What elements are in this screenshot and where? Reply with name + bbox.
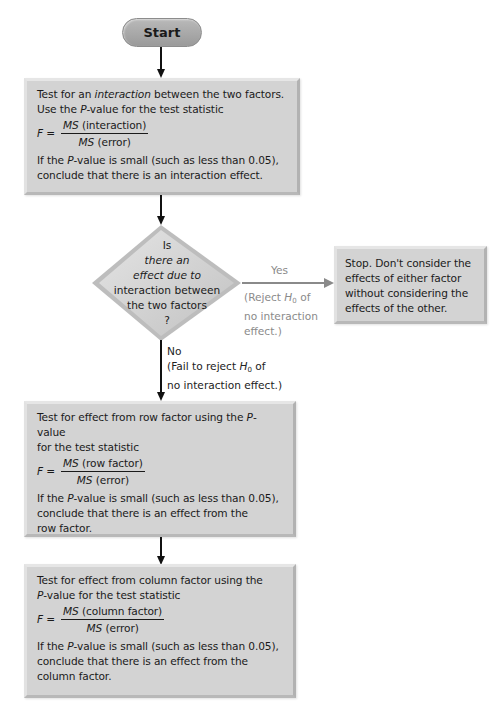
start-terminal: Start	[122, 18, 202, 47]
interaction-test-intro: Test for an interaction between the two …	[37, 87, 287, 102]
yes-note: (Reject H0 of no interaction effect.)	[244, 290, 334, 339]
row-factor-f-formula: F = MS (row factor) MS (error)	[37, 456, 283, 487]
yes-label: Yes	[271, 263, 288, 278]
column-factor-f-formula: F = MS (column factor) MS (error)	[37, 604, 283, 635]
interaction-f-formula: F = MS (interaction) MS (error)	[37, 118, 287, 149]
formula-numerator: MS (row factor)	[61, 456, 145, 472]
formula-denominator: MS (error)	[87, 620, 139, 635]
formula-denominator: MS (error)	[77, 472, 129, 487]
arrow-row-to-column-test	[160, 537, 162, 557]
formula-numerator: MS (interaction)	[61, 118, 148, 134]
no-arrow	[160, 340, 162, 393]
stop-box: Stop. Don't consider the effects of eith…	[334, 246, 487, 324]
yes-arrow	[242, 282, 326, 284]
arrowhead-icon	[157, 69, 165, 78]
column-factor-test-box: Test for effect from column factor using…	[24, 564, 296, 698]
formula-denominator: MS (error)	[79, 134, 131, 149]
row-factor-test-box: Test for effect from row factor using th…	[24, 401, 296, 537]
start-label: Start	[144, 25, 181, 40]
arrowhead-icon	[324, 278, 334, 288]
formula-numerator: MS (column factor)	[61, 604, 164, 620]
arrow-interaction-test-to-decision	[160, 195, 162, 217]
arrow-start-to-interaction-test	[160, 47, 162, 70]
decision-question: Is there an effect due to interaction be…	[92, 238, 242, 328]
interaction-test-box: Test for an interaction between the two …	[24, 78, 300, 195]
no-note: No (Fail to reject H0 of no interaction …	[167, 344, 347, 393]
arrowhead-icon	[157, 392, 165, 401]
